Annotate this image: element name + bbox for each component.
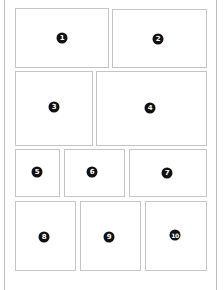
panel-number-badge: 5 (32, 167, 43, 178)
panel-number-badge: 6 (87, 167, 98, 178)
panel-number-badge: 2 (153, 34, 164, 45)
panel-number-badge: 1 (57, 33, 68, 44)
panel-number-badge: 8 (39, 232, 50, 243)
panel-number-badge: 9 (104, 232, 115, 243)
panel-number-badge: 10 (170, 230, 181, 241)
panel-number-badge: 3 (49, 102, 60, 113)
panel-number-badge: 7 (162, 168, 173, 179)
panel-number-badge: 4 (145, 103, 156, 114)
